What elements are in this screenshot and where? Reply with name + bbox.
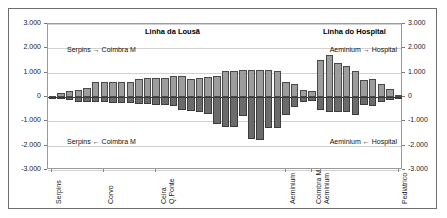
y-axis-tick-label-left: 2.000: [9, 43, 41, 50]
x-axis-tick-mark: [103, 169, 104, 172]
bar-positive: [118, 82, 125, 97]
bar-positive: [83, 88, 90, 97]
bar-negative: [291, 97, 298, 107]
y-axis-tick-mark-right: [402, 120, 405, 121]
bar-negative: [135, 97, 142, 104]
y-axis-tick-mark-right: [402, 169, 405, 170]
y-axis-tick-label-left: 0: [9, 92, 41, 99]
bar-negative: [66, 97, 73, 100]
y-axis-tick-label-left: -2.000: [9, 141, 41, 148]
bar-positive: [127, 82, 134, 97]
bar-negative: [274, 97, 281, 128]
bar-positive: [75, 90, 82, 97]
annotation-aeminium-to-hospital: Aeminium → Hospital: [242, 46, 397, 54]
bar-column: [178, 24, 187, 168]
bar-positive: [291, 84, 298, 97]
y-axis-tick-label-right: -1.000: [408, 116, 428, 123]
x-axis-category-label: Pediátrico: [401, 173, 409, 204]
x-axis-tick-mark: [51, 169, 52, 172]
bar-negative: [378, 97, 385, 102]
y-axis-tick-mark-left: [44, 47, 47, 48]
bar-negative: [308, 97, 315, 101]
bar-column: [195, 24, 204, 168]
bar-positive: [92, 82, 99, 97]
bar-positive: [274, 71, 281, 97]
y-axis-tick-mark-right: [402, 96, 405, 97]
bar-negative: [204, 97, 211, 114]
bar-negative: [343, 97, 350, 112]
gridline: [48, 170, 401, 171]
bar-positive: [161, 78, 168, 97]
bar-negative: [360, 97, 367, 105]
bar-negative: [83, 97, 90, 102]
bar-negative: [222, 97, 229, 127]
bar-positive: [222, 71, 229, 97]
bar-negative: [230, 97, 237, 127]
x-axis-category-label: Serpins: [55, 180, 63, 204]
bar-positive: [135, 79, 142, 97]
bar-positive: [187, 79, 194, 97]
bar-negative: [300, 97, 307, 102]
bar-negative: [317, 97, 324, 110]
bar-positive: [265, 70, 272, 97]
bar-negative: [369, 97, 376, 106]
bar-negative: [144, 97, 151, 104]
y-axis-tick-label-right: -3.000: [408, 165, 428, 172]
bar-column: [187, 24, 196, 168]
bar-positive: [230, 71, 237, 97]
x-axis-label-line: Aeminium: [289, 173, 297, 204]
y-axis-tick-label-right: 2.000: [408, 43, 426, 50]
bar-negative: [161, 97, 168, 105]
bar-negative: [282, 97, 289, 115]
bar-negative: [170, 97, 177, 106]
x-axis-category-label: Aeminium: [323, 173, 331, 204]
x-axis-category-label: Aeminium: [289, 173, 297, 204]
bar-negative: [196, 97, 203, 112]
bar-positive: [204, 77, 211, 97]
x-axis-category-label: Coimbra M: [315, 170, 323, 204]
y-axis-tick-mark-left: [44, 145, 47, 146]
bar-negative: [101, 97, 108, 102]
bar-column: [213, 24, 222, 168]
bar-column: [204, 24, 213, 168]
x-axis-label-line: Q.Ponte: [167, 178, 175, 204]
bar-negative: [239, 97, 246, 116]
bar-negative: [187, 97, 194, 111]
bar-positive: [369, 79, 376, 97]
x-axis-tick-mark: [398, 169, 399, 172]
y-axis-tick-label-right: 0: [408, 92, 412, 99]
x-axis-label-line: Aeminium: [323, 173, 331, 204]
chart-frame: 3.0002.0001.0000-1.000-2.000-3.000 3.000…: [8, 8, 437, 209]
y-axis-tick-label-right: -2.000: [408, 141, 428, 148]
bar-negative: [265, 97, 272, 128]
bar-positive: [378, 84, 385, 97]
bar-negative: [49, 97, 56, 99]
x-axis-tick-mark: [320, 169, 321, 172]
y-axis-tick-mark-left: [44, 23, 47, 24]
bar-positive: [170, 76, 177, 97]
bar-positive: [239, 70, 246, 97]
bar-negative: [386, 97, 393, 100]
annotation-aeminium-from-hospital: Aeminium ← Hospital: [242, 138, 397, 146]
bar-negative: [213, 97, 220, 124]
y-axis-tick-mark-left: [44, 169, 47, 170]
bar-negative: [352, 97, 359, 115]
y-axis-tick-label-right: 3.000: [408, 19, 426, 26]
bar-negative: [109, 97, 116, 103]
bar-positive: [109, 82, 116, 97]
bar-positive: [352, 71, 359, 97]
bar-negative: [178, 97, 185, 110]
section-title-hospital: Linha do Hospital: [323, 27, 386, 36]
y-axis-tick-mark-left: [44, 96, 47, 97]
y-axis-tick-mark-left: [44, 72, 47, 73]
bar-negative: [326, 97, 333, 112]
x-axis-tick-mark: [285, 169, 286, 172]
bar-positive: [317, 60, 324, 97]
bar-column: [152, 24, 161, 168]
bar-negative: [152, 97, 159, 105]
y-axis-tick-label-left: 1.000: [9, 68, 41, 75]
x-axis-category-label: CeiraQ.Ponte: [160, 178, 175, 204]
y-axis-tick-label-right: 1.000: [408, 68, 426, 75]
bar-positive: [196, 78, 203, 97]
y-axis-tick-label-left: 3.000: [9, 19, 41, 26]
